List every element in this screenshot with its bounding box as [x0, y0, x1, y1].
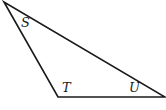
- angle-label-u: U: [129, 80, 141, 95]
- angle-label-t: T: [62, 80, 72, 95]
- triangle-diagram: S T U: [0, 0, 166, 110]
- angle-label-s: S: [21, 15, 30, 30]
